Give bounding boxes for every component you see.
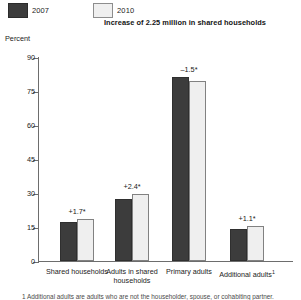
y-tick-label: 90 [27,53,35,62]
y-tick-label: 0 [31,257,35,266]
legend-swatch-2010 [93,3,113,18]
bar-delta-label: +1.7* [60,207,94,216]
legend-label-2010: 2010 [117,6,134,15]
plot-area: 0153045607590 +1.7*+2.4*–1.5*+1.1* [38,57,293,262]
x-category-label: Additional adults1 [216,268,278,280]
chart-title: Increase of 2.25 million in shared house… [104,18,266,27]
bar-2010[interactable] [189,81,206,261]
bar-2007[interactable] [60,222,77,261]
bar-2010[interactable] [247,226,264,261]
y-tick-label: 45 [27,155,35,164]
bar-2010[interactable] [77,219,94,261]
bar-2007[interactable] [230,229,247,261]
bar-pair [172,57,206,261]
y-tick-label: 15 [27,223,35,232]
y-tick-label: 60 [27,121,35,130]
bar-delta-label: +2.4* [115,182,149,191]
legend-swatch-2007 [8,3,28,18]
x-axis-line [38,261,293,262]
legend-item-2010: 2010 [93,3,134,18]
chart-legend: 2007 2010 [8,3,134,18]
bar-pair [115,57,149,261]
legend-label-2007: 2007 [32,6,49,15]
bar-delta-label: +1.1* [230,214,264,223]
chart-footnote: 1 Additional adults are adults who are n… [22,293,274,300]
bar-2007[interactable] [172,77,189,261]
bar-pair [230,57,264,261]
bar-delta-label: –1.5* [172,65,206,74]
bar-pair [60,57,94,261]
bar-2010[interactable] [132,194,149,261]
y-tick-label: 30 [27,189,35,198]
y-tick-label: 75 [27,87,35,96]
y-axis-label: Percent [5,34,30,43]
bar-2007[interactable] [115,199,132,261]
legend-item-2007: 2007 [8,3,49,18]
